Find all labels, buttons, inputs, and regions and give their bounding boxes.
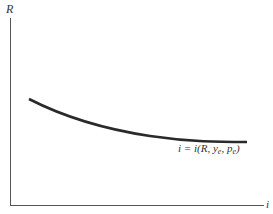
curve-label-close: ) xyxy=(236,142,240,154)
chart-canvas xyxy=(0,0,273,214)
y-axis-label: R xyxy=(6,3,13,15)
curve-label: i = i(R, ye, pe) xyxy=(178,143,240,156)
curve-label-main: i = i(R, xyxy=(178,142,213,154)
curve-i-function xyxy=(29,99,247,142)
x-axis-label: i xyxy=(266,199,269,210)
